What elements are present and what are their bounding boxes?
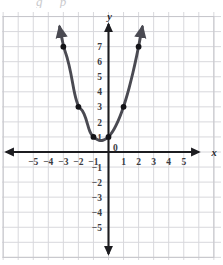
x-tick-label: −3 (58, 157, 68, 167)
x-tick-label: 2 (136, 157, 141, 167)
origin-label: 0 (113, 143, 118, 153)
data-point (136, 44, 142, 50)
y-tick-label: −5 (92, 223, 102, 233)
y-tick-label: −2 (92, 178, 102, 188)
y-tick-label: −1 (92, 163, 102, 173)
y-tick-label: 6 (97, 57, 102, 67)
x-tick-label: −2 (73, 157, 83, 167)
graph-svg: −5−4−3−2−112345−5−4−3−2−112345670xy (0, 10, 223, 262)
x-tick-label: 5 (181, 157, 186, 167)
y-tick-label: 4 (97, 87, 102, 97)
data-point (60, 44, 66, 50)
grid-lines (2, 12, 221, 260)
graph-figure: g p −5−4−3−2−112345−5−4−3−2−112345670xy (0, 0, 223, 265)
x-tick-label: −5 (28, 157, 38, 167)
coordinate-plane: −5−4−3−2−112345−5−4−3−2−112345670xy (0, 10, 223, 262)
y-tick-label: 2 (97, 118, 102, 128)
data-point (106, 134, 112, 140)
y-tick-label: 3 (97, 102, 102, 112)
y-tick-label: 5 (97, 72, 102, 82)
x-axis-label: x (210, 147, 216, 158)
x-tick-label: 1 (121, 157, 126, 167)
data-point (76, 104, 82, 110)
y-tick-label: 7 (97, 42, 102, 52)
y-axis-label: y (105, 11, 112, 22)
y-tick-label: −4 (92, 208, 102, 218)
data-point (91, 134, 97, 140)
top-text-remnant: g p (36, 0, 96, 8)
x-tick-label: 4 (166, 157, 171, 167)
x-tick-label: −4 (43, 157, 53, 167)
data-point (121, 104, 127, 110)
x-tick-label: 3 (151, 157, 156, 167)
y-tick-label: −3 (92, 193, 102, 203)
